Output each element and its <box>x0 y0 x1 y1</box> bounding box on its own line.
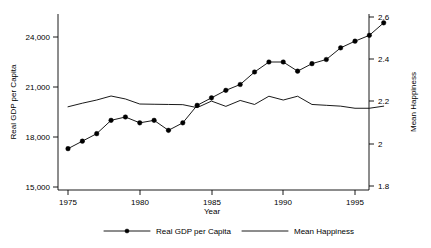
left-tick-label-15000: 15,000 <box>26 183 51 192</box>
x-axis-title: Year <box>204 207 221 216</box>
left-tick-label-24000: 24,000 <box>26 33 51 42</box>
left-tick-label-21000: 21,000 <box>26 83 51 92</box>
dual-axis-line-chart: 24,000 21,000 18,000 15,000 2.6 2.4 2.2 … <box>0 0 431 248</box>
data-point <box>109 118 114 123</box>
right-axis-title: Mean Happiness <box>409 72 418 132</box>
data-point <box>123 115 128 120</box>
data-point <box>137 121 142 126</box>
data-point <box>80 139 85 144</box>
data-point <box>324 57 329 62</box>
data-point <box>281 60 286 65</box>
chart-page: 24,000 21,000 18,000 15,000 2.6 2.4 2.2 … <box>0 0 431 248</box>
x-tick-label-1975: 1975 <box>59 198 77 207</box>
data-point <box>381 21 386 26</box>
left-axis-title: Real GDP per Capita <box>9 64 18 140</box>
right-tick-label-1-8: 1.8 <box>378 182 390 191</box>
right-tick-label-2-0: 2 <box>378 140 383 149</box>
data-point <box>66 146 71 151</box>
data-point <box>267 60 272 65</box>
data-point <box>353 39 358 44</box>
data-point <box>166 128 171 133</box>
x-tick-label-1980: 1980 <box>131 198 149 207</box>
data-point <box>295 69 300 74</box>
x-tick-label-1990: 1990 <box>274 198 292 207</box>
x-tick-label-1985: 1985 <box>203 198 221 207</box>
left-tick-label-18000: 18,000 <box>26 133 51 142</box>
data-point <box>181 121 186 126</box>
data-point <box>367 33 372 38</box>
data-point <box>252 70 257 75</box>
data-point <box>152 118 157 123</box>
right-tick-label-2-4: 2.4 <box>378 55 390 64</box>
data-point <box>238 82 243 87</box>
right-tick-label-2-2: 2.2 <box>378 97 390 106</box>
data-point <box>94 131 99 136</box>
data-point <box>209 96 214 101</box>
legend-marker-real-gdp-per-capita <box>125 229 129 233</box>
data-point <box>310 61 315 66</box>
x-tick-label-1995: 1995 <box>346 198 364 207</box>
data-point <box>224 88 229 93</box>
data-point <box>338 46 343 51</box>
legend-label-real-gdp-per-capita: Real GDP per Capita <box>156 227 232 236</box>
legend-label-mean-happiness: Mean Happiness <box>294 227 354 236</box>
